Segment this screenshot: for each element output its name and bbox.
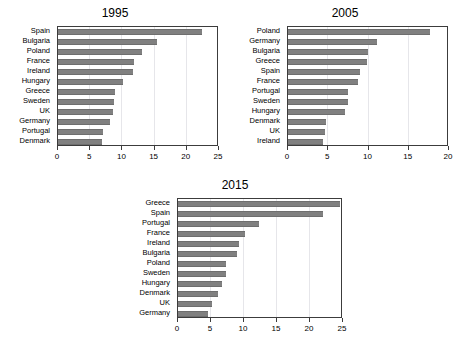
bar xyxy=(288,99,348,105)
bar xyxy=(178,301,212,307)
x-axis-tick-label: 5 xyxy=(195,324,225,333)
bar xyxy=(288,89,348,95)
bar xyxy=(178,231,245,237)
bar xyxy=(58,29,202,35)
bar xyxy=(58,59,134,65)
x-axis-tick xyxy=(368,146,369,150)
category-label: Hungary xyxy=(142,279,170,287)
bar xyxy=(178,211,323,217)
plot-axes-2015 xyxy=(177,198,342,318)
bar xyxy=(178,291,218,297)
bar xyxy=(178,271,226,277)
category-label: Bulgaria xyxy=(22,37,50,45)
bar xyxy=(58,119,110,125)
category-label: Portugal xyxy=(22,127,50,135)
category-label: Bulgaria xyxy=(252,47,280,55)
bar xyxy=(288,49,368,55)
category-label: Germany xyxy=(139,309,170,317)
bar xyxy=(178,281,222,287)
x-axis-tick-label: 5 xyxy=(312,152,342,161)
category-label: UK xyxy=(270,127,280,135)
bar xyxy=(58,39,157,45)
bar xyxy=(58,49,142,55)
category-label: Denmark xyxy=(20,137,50,145)
plot-area-wrapper-1995: SpainBulgariaPolandFranceIrelandHungaryG… xyxy=(0,6,230,171)
x-axis-tick-label: 0 xyxy=(162,324,192,333)
x-axis-tick xyxy=(218,146,219,150)
x-axis-tick-label: 0 xyxy=(42,152,72,161)
bar xyxy=(178,251,237,257)
category-labels-2005: PolandGermanyBulgariaGreeceSpainFrancePo… xyxy=(230,26,284,146)
x-axis-tick-label: 5 xyxy=(74,152,104,161)
bar xyxy=(58,139,102,145)
category-labels-2015: GreeceSpainPortugalFranceIrelandBulgaria… xyxy=(115,198,174,318)
category-label: Ireland xyxy=(257,137,280,145)
x-axis-tick-label: 15 xyxy=(261,324,291,333)
x-axis-tick xyxy=(448,146,449,150)
plot-area-wrapper-2015: GreeceSpainPortugalFranceIrelandBulgaria… xyxy=(115,178,355,346)
plot-area-wrapper-2005: PolandGermanyBulgariaGreeceSpainFrancePo… xyxy=(230,6,460,171)
category-label: Spain xyxy=(31,27,50,35)
category-label: Greece xyxy=(255,57,280,65)
bar xyxy=(288,139,323,145)
category-label: Germany xyxy=(249,37,280,45)
category-label: Poland xyxy=(27,47,50,55)
x-axis-tick-label: 10 xyxy=(228,324,258,333)
x-axis-tick-label: 15 xyxy=(393,152,423,161)
bar xyxy=(178,221,259,227)
chart-panel-2005: 2005 PolandGermanyBulgariaGreeceSpainFra… xyxy=(230,6,460,171)
x-axis-tick xyxy=(210,318,211,322)
bar xyxy=(178,241,239,247)
x-axis-tick xyxy=(57,146,58,150)
bar xyxy=(288,29,430,35)
bar xyxy=(58,69,133,75)
x-axis-tick-label: 20 xyxy=(433,152,460,161)
category-label: Sweden xyxy=(253,97,280,105)
x-axis-tick xyxy=(309,318,310,322)
bar xyxy=(288,109,345,115)
category-label: UK xyxy=(160,299,170,307)
x-axis-tick-label: 20 xyxy=(171,152,201,161)
category-label: UK xyxy=(40,107,50,115)
x-axis-tick xyxy=(276,318,277,322)
x-axis-tick xyxy=(186,146,187,150)
x-axis-tick-label: 20 xyxy=(294,324,324,333)
bar xyxy=(178,261,226,267)
x-axis-tick-label: 25 xyxy=(327,324,357,333)
bar xyxy=(58,79,123,85)
x-axis-tick-label: 15 xyxy=(139,152,169,161)
x-axis-tick xyxy=(154,146,155,150)
x-axis-tick xyxy=(243,318,244,322)
x-axis-tick xyxy=(287,146,288,150)
plot-axes-1995 xyxy=(57,26,218,146)
category-label: Denmark xyxy=(140,289,170,297)
category-label: Spain xyxy=(261,67,280,75)
bar xyxy=(178,201,340,207)
bar xyxy=(58,109,113,115)
category-label: Germany xyxy=(19,117,50,125)
category-labels-1995: SpainBulgariaPolandFranceIrelandHungaryG… xyxy=(0,26,54,146)
bar xyxy=(58,99,114,105)
category-label: Sweden xyxy=(23,97,50,105)
category-label: Bulgaria xyxy=(142,249,170,257)
bar xyxy=(58,89,115,95)
category-label: Hungary xyxy=(22,77,50,85)
category-label: France xyxy=(27,57,50,65)
x-axis-tick xyxy=(342,318,343,322)
bar xyxy=(288,79,358,85)
bar xyxy=(178,311,208,317)
x-axis-tick xyxy=(121,146,122,150)
chart-panel-1995: 1995 SpainBulgariaPolandFranceIrelandHun… xyxy=(0,6,230,171)
category-label: France xyxy=(257,77,280,85)
bar xyxy=(288,129,325,135)
x-axis-tick-label: 10 xyxy=(106,152,136,161)
category-label: Ireland xyxy=(147,239,170,247)
chart-panel-2015: 2015 GreeceSpainPortugalFranceIrelandBul… xyxy=(115,178,355,346)
bar xyxy=(288,119,326,125)
bar xyxy=(58,129,103,135)
category-label: France xyxy=(147,229,170,237)
x-axis-tick xyxy=(408,146,409,150)
x-axis-tick xyxy=(327,146,328,150)
bar xyxy=(288,59,367,65)
category-label: Portugal xyxy=(252,87,280,95)
